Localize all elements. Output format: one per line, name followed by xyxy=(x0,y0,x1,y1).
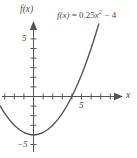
y-tick-label-5: 5 xyxy=(22,34,27,43)
equation-annotation: f(x) = 0.25x2 − 4 xyxy=(57,9,116,20)
function-curve xyxy=(0,97,34,135)
equation-constant: − 4 xyxy=(102,10,116,20)
x-tick-label-5: 5 xyxy=(79,101,84,110)
graph-figure: f(x) x 5 −5 5 f(x) = 0.25x2 − 4 xyxy=(0,0,137,158)
y-axis-arrowhead xyxy=(30,21,37,30)
y-tick-label-minus-5: −5 xyxy=(17,140,28,149)
parabola-curve xyxy=(0,24,99,135)
equation-coefficient: 0.25 xyxy=(79,10,95,20)
y-axis-label: f(x) xyxy=(20,5,33,15)
coordinate-plot xyxy=(0,0,137,158)
x-axis-arrowhead xyxy=(114,93,123,100)
x-axis-label: x xyxy=(126,91,130,101)
equation-equals: = xyxy=(70,10,80,20)
equation-fx: f(x) xyxy=(57,10,70,20)
